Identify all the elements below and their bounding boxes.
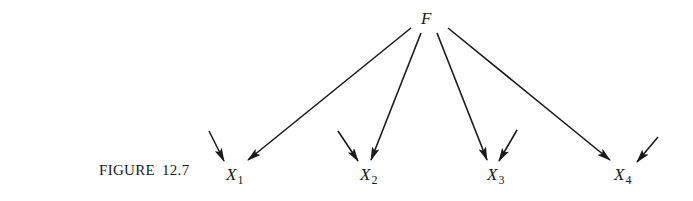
caption-label: FIGURE [99, 162, 155, 178]
indicator-node-x1: X1 [226, 166, 243, 186]
caption-number: 12.7 [162, 162, 189, 178]
indicator-label: X [226, 165, 236, 184]
indicator-node-x4: X4 [614, 166, 631, 186]
indicator-subscript: 2 [371, 173, 377, 187]
loading-arrow-f-x3 [437, 33, 487, 160]
loading-arrow-f-x2 [371, 33, 421, 160]
indicator-label: X [614, 165, 624, 184]
indicator-node-x2: X2 [360, 166, 377, 186]
loading-arrow-f-x4 [448, 28, 610, 160]
figure-caption: FIGURE12.7 [99, 163, 189, 178]
factor-node-f: F [421, 10, 431, 27]
indicator-node-x3: X3 [487, 166, 504, 186]
indicator-label: X [487, 165, 497, 184]
error-arrow-x3 [499, 130, 517, 161]
indicator-subscript: 3 [498, 173, 504, 187]
indicator-label: X [360, 165, 370, 184]
error-arrow-x2 [338, 131, 358, 161]
factor-label: F [421, 9, 431, 28]
indicator-subscript: 4 [625, 173, 631, 187]
error-arrow-x1 [209, 131, 224, 161]
indicator-subscript: 1 [237, 173, 243, 187]
path-diagram: F X1 X2 X3 X4 FIGURE12.7 [0, 0, 693, 201]
error-arrow-x4 [637, 137, 658, 162]
loading-arrow-f-x1 [248, 28, 411, 160]
